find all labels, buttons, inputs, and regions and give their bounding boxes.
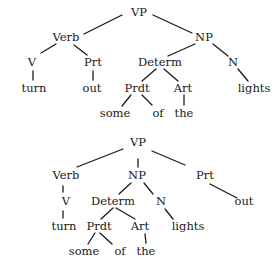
- tree-edge: [41, 44, 56, 53]
- tree-node-lights: lights: [238, 83, 271, 95]
- tree-edge: [238, 69, 248, 81]
- tree-edge: [164, 69, 178, 81]
- tree-node-prt: Prt: [196, 170, 214, 182]
- tree-node-turn: turn: [22, 83, 47, 95]
- tree-edge: [101, 208, 113, 219]
- tree-node-verb: Verb: [53, 170, 80, 182]
- tree-node-n: N: [156, 196, 166, 208]
- tree-node-of: of: [114, 246, 125, 258]
- tree-node-of: of: [152, 108, 163, 120]
- tree-node-the: the: [175, 108, 194, 120]
- tree-node-n: N: [228, 57, 238, 69]
- tree-node-prdt: Prdt: [124, 83, 149, 95]
- tree-node-np: NP: [128, 170, 146, 182]
- tree-edge: [165, 209, 173, 219]
- tree-node-vp: VP: [130, 137, 146, 149]
- tree-edge: [145, 234, 146, 243]
- tree-node-determ: Determ: [91, 196, 135, 208]
- tree-node-determ: Determ: [138, 57, 182, 69]
- tree-node-prdt: Prdt: [86, 221, 111, 233]
- tree-edge: [74, 45, 87, 55]
- parse-tree-diagram: VPVerbNPVPrtDetermNturnoutPrdtArtlightss…: [0, 0, 279, 260]
- tree-node-v: V: [28, 57, 36, 69]
- tree-edge: [168, 44, 195, 56]
- tree-edge: [142, 95, 152, 105]
- tree-node-the: the: [137, 246, 156, 258]
- tree-edge: [122, 95, 131, 106]
- tree-edge: [153, 15, 192, 33]
- tree-edge: [100, 233, 112, 244]
- tree-edge: [119, 183, 131, 194]
- tree-node-out: out: [83, 83, 102, 95]
- tree-edge: [77, 149, 123, 167]
- tree-node-art: Art: [174, 83, 192, 95]
- tree-node-turn: turn: [52, 221, 77, 233]
- tree-node-some: some: [100, 108, 131, 120]
- tree-edge: [84, 15, 122, 34]
- tree-node-np: NP: [195, 32, 213, 44]
- tree-node-lights: lights: [172, 221, 205, 233]
- tree-node-prt: Prt: [84, 57, 102, 69]
- tree-edge: [142, 69, 156, 81]
- tree-edge: [213, 44, 228, 56]
- tree-edge: [116, 208, 135, 219]
- tree-edge: [152, 151, 185, 165]
- tree-node-verb: Verb: [53, 32, 80, 44]
- tree-node-vp: VP: [131, 7, 147, 19]
- tree-edge: [144, 183, 153, 194]
- tree-node-out: out: [235, 196, 254, 208]
- tree-edge: [210, 184, 237, 198]
- tree-node-art: Art: [131, 221, 149, 233]
- tree-node-v: V: [62, 196, 70, 208]
- tree-edge: [88, 233, 95, 244]
- tree-node-some: some: [69, 246, 100, 258]
